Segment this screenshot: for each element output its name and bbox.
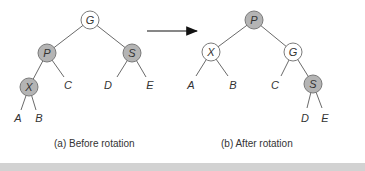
before-leaf-c: C xyxy=(64,79,72,91)
before-tree-edges xyxy=(21,20,146,110)
svg-text:G: G xyxy=(86,14,95,26)
before-leaf-a: A xyxy=(13,112,21,124)
svg-text:X: X xyxy=(24,81,33,93)
svg-text:G: G xyxy=(289,46,298,58)
after-node-p: P xyxy=(245,11,263,29)
after-leaf-a: A xyxy=(186,79,194,91)
before-caption: (a) Before rotation xyxy=(54,138,135,149)
before-node-s: S xyxy=(123,44,141,62)
after-leaf-d: D xyxy=(301,112,309,124)
after-tree-edges xyxy=(196,20,322,108)
before-node-p: P xyxy=(38,44,56,62)
svg-text:X: X xyxy=(206,46,215,58)
after-leaf-b: B xyxy=(229,79,236,91)
after-node-g: G xyxy=(284,43,302,61)
before-node-g: G xyxy=(81,11,99,29)
after-node-x: X xyxy=(202,43,220,61)
after-leaf-c: C xyxy=(271,79,279,91)
after-caption: (b) After rotation xyxy=(221,138,293,149)
svg-text:P: P xyxy=(43,47,51,59)
before-leaf-b: B xyxy=(35,112,42,124)
bottom-divider xyxy=(0,163,365,171)
before-node-x: X xyxy=(20,78,38,96)
svg-text:P: P xyxy=(250,14,258,26)
after-node-s: S xyxy=(304,75,322,93)
before-leaf-d: D xyxy=(104,79,112,91)
svg-text:S: S xyxy=(128,47,136,59)
after-leaf-e: E xyxy=(321,112,329,124)
before-leaf-e: E xyxy=(146,79,154,91)
svg-text:S: S xyxy=(309,78,317,90)
